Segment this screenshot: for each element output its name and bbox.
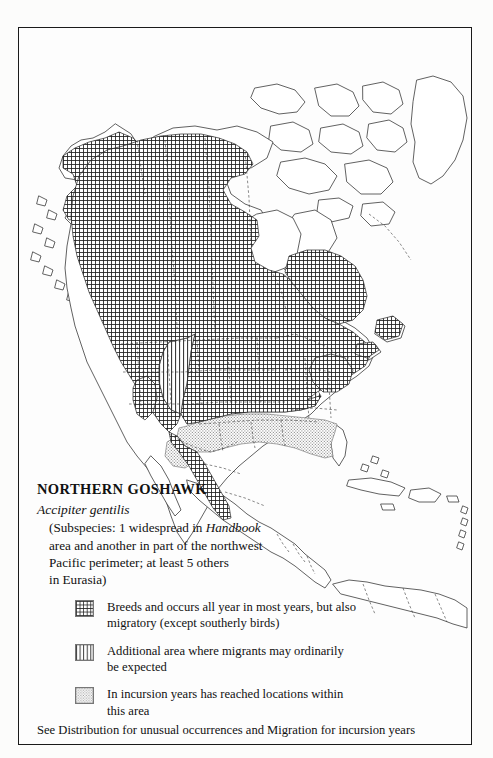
footer-note: See Distribution for unusual occurrences… (37, 723, 415, 738)
legend-item-breeding: Breeds and occurs all year in most years… (75, 599, 435, 632)
subspecies-line-1: (Subspecies: 1 widespread in Handbook (52, 519, 337, 536)
legend: Breeds and occurs all year in most years… (75, 599, 435, 730)
stipple-swatch (75, 687, 94, 704)
legend-migrant-line-1: Additional area where migrants may ordin… (107, 643, 344, 659)
legend-text-migrant: Additional area where migrants may ordin… (107, 643, 344, 676)
map-frame: NORTHERN GOSHAWK Accipiter gentilis (Sub… (18, 27, 472, 745)
legend-incursion-line-2: this area (107, 703, 343, 719)
legend-item-migrant: Additional area where migrants may ordin… (75, 643, 435, 676)
species-scientific-name: Accipiter gentilis (37, 501, 337, 519)
subspecies-note: (Subspecies: 1 widespread in Handbook ar… (37, 519, 337, 588)
legend-incursion-line-1: In incursion years has reached locations… (107, 686, 343, 702)
legend-item-incursion: In incursion years has reached locations… (75, 686, 435, 719)
legend-migrant-line-2: be expected (107, 659, 344, 675)
subspecies-line-2: area and another in part of the northwes… (52, 537, 337, 554)
species-common-name: NORTHERN GOSHAWK (37, 480, 337, 499)
vertical-lines-swatch (75, 644, 94, 661)
crosshatch-swatch (75, 600, 94, 617)
page-root: NORTHERN GOSHAWK Accipiter gentilis (Sub… (0, 0, 493, 758)
subspecies-line-4: in Eurasia) (52, 571, 337, 588)
legend-breeding-line-1: Breeds and occurs all year in most years… (107, 599, 356, 615)
legend-text-incursion: In incursion years has reached locations… (107, 686, 343, 719)
legend-breeding-line-2: migratory (except southerly birds) (107, 615, 356, 631)
legend-text-breeding: Breeds and occurs all year in most years… (107, 599, 356, 632)
handbook-italic: Handbook (206, 520, 261, 535)
caption-block: NORTHERN GOSHAWK Accipiter gentilis (Sub… (37, 480, 337, 588)
subspecies-line-3: Pacific perimeter; at least 5 others (52, 554, 337, 571)
